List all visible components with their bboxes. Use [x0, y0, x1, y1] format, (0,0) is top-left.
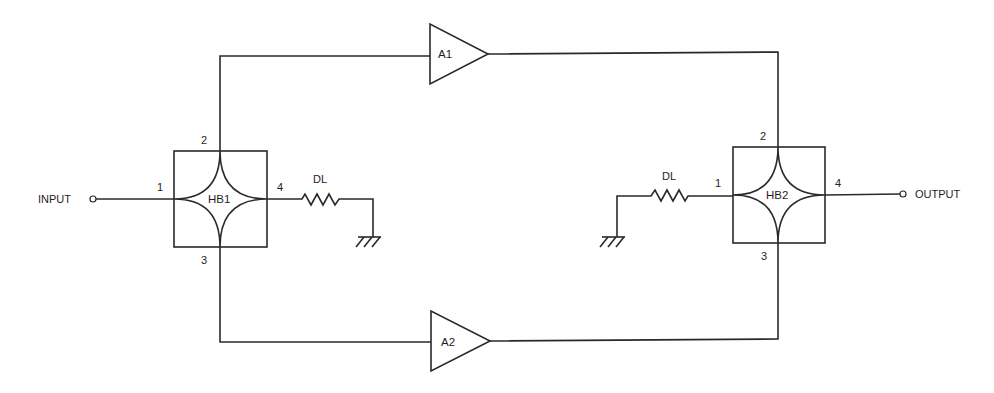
load-left: DL	[267, 173, 381, 247]
input-terminal-circle	[90, 196, 96, 202]
input-label: INPUT	[38, 193, 71, 205]
hb2-port-3: 3	[761, 250, 767, 262]
hb2-port-1: 1	[715, 177, 721, 189]
dl-left-resistor	[267, 194, 373, 237]
hb1-port-4: 4	[277, 181, 283, 193]
amplifier-a2-icon	[431, 311, 490, 371]
dl-right-resistor	[617, 190, 733, 237]
dl-left-label: DL	[313, 173, 327, 185]
output-terminal-circle	[900, 191, 906, 197]
lower-path: A2	[220, 243, 778, 371]
hb1-to-a2-wire	[220, 247, 431, 342]
hb1-label: HB1	[208, 193, 230, 205]
output-terminal: OUTPUT	[825, 188, 961, 200]
hb2-label: HB2	[766, 189, 788, 201]
a1-to-hb2-wire	[488, 52, 778, 147]
hb2-port-4: 4	[835, 177, 841, 189]
input-terminal: INPUT	[38, 193, 174, 205]
ground-right-icon	[600, 237, 625, 247]
hb2-port-2: 2	[760, 130, 766, 142]
a2-label: A2	[441, 336, 455, 348]
a2-to-hb2-wire	[490, 243, 778, 341]
ground-left-icon	[356, 237, 381, 247]
dl-right-label: DL	[662, 170, 676, 182]
load-right: DL	[600, 170, 733, 247]
hybrid-hb2: HB2 1 2 3 4	[715, 130, 841, 262]
hb1-to-a1-wire	[220, 56, 430, 151]
output-label: OUTPUT	[915, 188, 961, 200]
hb1-port-1: 1	[157, 181, 163, 193]
hb1-port-3: 3	[201, 254, 207, 266]
hybrid-hb1: HB1 1 2 3 4	[157, 134, 283, 266]
a1-label: A1	[438, 48, 452, 60]
output-wire	[825, 194, 900, 195]
balanced-amplifier-diagram: INPUT HB1 1 2 3 4 DL A1 A2	[0, 0, 994, 393]
upper-path: A1	[220, 24, 778, 151]
hb1-port-2: 2	[201, 134, 207, 146]
